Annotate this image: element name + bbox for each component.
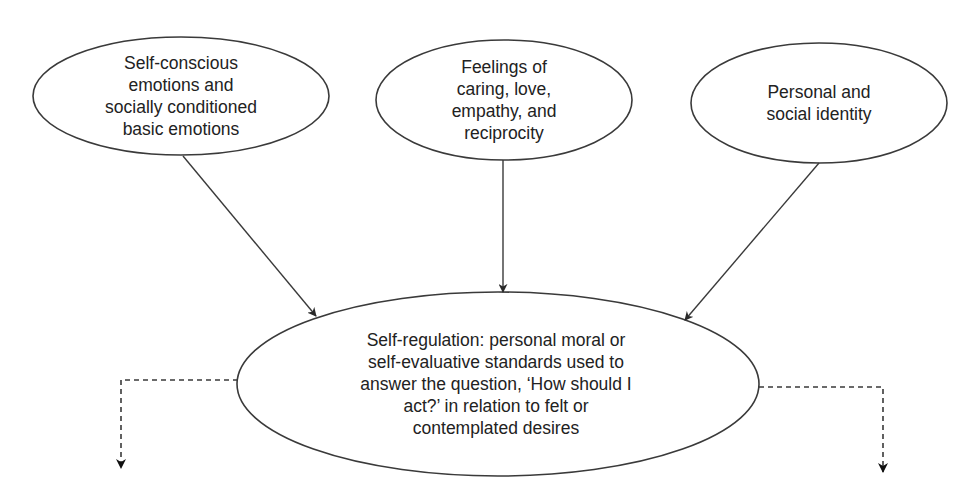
node-feelings-of-caring-label: Feelings of caring, love, empathy, and r… — [390, 48, 618, 152]
edge-self-regulation-dashed-left — [121, 380, 238, 468]
node-self-regulation-label: Self-regulation: personal moral or self-… — [300, 320, 692, 448]
edge-identity-to-self-regulation — [685, 163, 819, 320]
node-personal-social-identity-label: Personal and social identity — [705, 75, 933, 131]
edge-self-regulation-dashed-right — [759, 387, 883, 472]
edge-self-conscious-to-self-regulation — [183, 156, 316, 316]
node-self-conscious-emotions-label: Self-conscious emotions and socially con… — [41, 44, 321, 148]
